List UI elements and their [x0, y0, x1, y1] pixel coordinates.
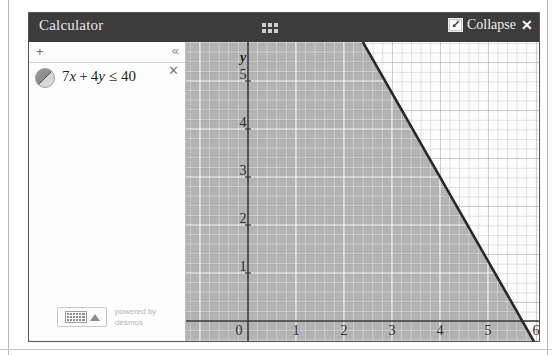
collapse-controls[interactable]: Collapse ✕: [448, 17, 533, 33]
x-tick-5: 5: [479, 323, 497, 339]
powered-by-line-2: desmos: [115, 317, 156, 328]
powered-by-desmos-label: powered by desmos: [115, 306, 156, 328]
expression-empty-area[interactable]: [29, 94, 185, 342]
dot: [262, 29, 266, 33]
expression-panel-footer: powered by desmos: [29, 307, 185, 331]
collapse-panel-button[interactable]: «: [172, 43, 179, 58]
y-tick-5: 5: [234, 67, 252, 83]
y-tick-4: 4: [234, 115, 252, 131]
x-tick-4: 4: [431, 323, 449, 339]
x-tick-2: 2: [335, 323, 353, 339]
expression-input[interactable]: 7x+4y≤40: [62, 68, 136, 85]
delete-expression-icon[interactable]: ✕: [168, 63, 179, 78]
y-tick-3: 3: [234, 163, 252, 179]
page-border-bottom: [0, 349, 552, 350]
variable-y: y: [98, 68, 105, 84]
graph-canvas[interactable]: y 5 4 3 2 1 0 1 2 3 4 5 6: [186, 42, 540, 342]
graphing-calculator-widget: Calculator Collapse ✕ +: [28, 12, 540, 342]
inequality-shade-swatch-icon[interactable]: [35, 68, 55, 88]
expression-toolbar: + «: [29, 42, 185, 63]
boundary-line: [186, 42, 540, 342]
add-expression-button[interactable]: +: [36, 44, 44, 59]
dot: [274, 29, 278, 33]
x-tick-6: 6: [527, 323, 540, 339]
keyboard-icon: [65, 311, 87, 323]
x-tick-0: 0: [230, 323, 248, 339]
keypad-toggle-button[interactable]: [57, 307, 107, 327]
collapse-arrow-icon[interactable]: [448, 18, 463, 32]
x-tick-3: 3: [383, 323, 401, 339]
expression-list-item[interactable]: 7x+4y≤40 ✕: [29, 63, 185, 95]
grid-dots-icon[interactable]: [262, 23, 280, 34]
x-tick-1: 1: [287, 323, 305, 339]
expression-panel: + « 7x+4y≤40 ✕ powered by desmos: [29, 42, 186, 342]
dot: [274, 23, 278, 27]
dot: [268, 23, 272, 27]
window-header-bar: Calculator Collapse ✕: [29, 13, 540, 42]
plus-operator: +: [79, 68, 87, 84]
close-icon[interactable]: ✕: [521, 18, 533, 32]
powered-by-line-1: powered by: [115, 306, 156, 317]
page-border-right: [547, 0, 548, 355]
page-border-left: [8, 0, 9, 355]
graph-toggle-icon: [90, 314, 100, 321]
dot: [262, 23, 266, 27]
collapse-button-label[interactable]: Collapse: [467, 17, 516, 33]
y-tick-1: 1: [234, 259, 252, 275]
right-hand-side: 40: [121, 68, 136, 84]
variable-x: x: [70, 68, 77, 84]
y-tick-2: 2: [234, 211, 252, 227]
y-axis-label: y: [240, 50, 246, 66]
dot: [268, 29, 272, 33]
coefficient-x: 7: [62, 68, 70, 84]
relation-operator: ≤: [109, 68, 117, 84]
page-title: Calculator: [39, 17, 103, 34]
